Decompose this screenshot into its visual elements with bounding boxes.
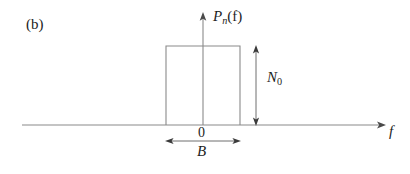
x-axis-label: f (389, 124, 393, 139)
height-dimension-arrow (253, 45, 259, 126)
height-label-base: N (267, 69, 277, 85)
height-annotation-label: N0 (267, 70, 282, 85)
figure-panel-b: (b) Pn(f) f 0 N0 B (0, 0, 410, 174)
y-axis-label-subscript: n (222, 15, 227, 26)
y-axis-label-argument: (f) (227, 8, 242, 24)
panel-label: (b) (26, 17, 44, 32)
origin-tick-label: 0 (198, 126, 205, 140)
y-axis-label: Pn(f) (213, 9, 242, 24)
height-label-subscript: 0 (277, 76, 282, 87)
width-annotation-label: B (197, 144, 206, 159)
y-axis-label-base: P (213, 8, 222, 24)
y-axis-line-group (200, 12, 207, 125)
